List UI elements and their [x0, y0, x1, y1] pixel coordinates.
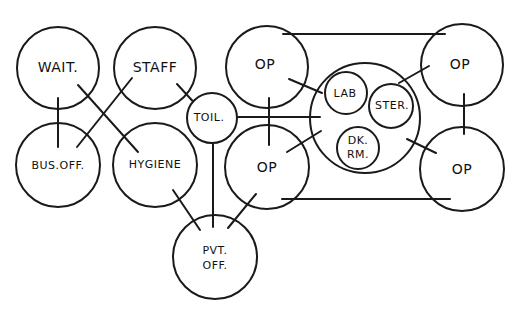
- node-sterilization: STER.: [369, 84, 413, 128]
- node-staff: STAFF: [114, 27, 196, 109]
- edge-op-bl-private-office: [228, 194, 256, 228]
- label-operatory-top-left: OP: [255, 56, 275, 72]
- node-toilet: TOIL.: [187, 93, 237, 143]
- node-operatory-bottom-right: OP: [420, 127, 504, 211]
- label-hygiene: HYGIENE: [129, 158, 181, 171]
- label-private-office-line2: OFF.: [202, 259, 227, 272]
- node-private-office: PVT. OFF.: [173, 215, 257, 299]
- edge-hygiene-private-office: [173, 190, 200, 230]
- label-darkroom-line1: DK.: [348, 134, 369, 147]
- node-operatory-top-right: OP: [421, 24, 503, 106]
- label-private-office-line1: PVT.: [202, 244, 227, 257]
- label-operatory-bottom-right: OP: [452, 161, 472, 177]
- label-operatory-top-right: OP: [450, 56, 470, 72]
- node-waiting-room: WAIT.: [17, 27, 99, 109]
- label-waiting-room: WAIT.: [38, 59, 79, 75]
- node-operatory-top-left: OP: [226, 26, 308, 108]
- label-lab: LAB: [334, 87, 357, 100]
- node-lab: LAB: [325, 72, 367, 114]
- label-toilet: TOIL.: [193, 111, 225, 124]
- label-business-office: BUS.OFF.: [31, 159, 84, 172]
- adjacency-diagram: WAIT. STAFF BUS.OFF. HYGIENE TOIL. PVT. …: [0, 0, 513, 312]
- label-operatory-bottom-left: OP: [257, 159, 277, 175]
- label-sterilization: STER.: [375, 99, 409, 112]
- label-staff: STAFF: [133, 59, 178, 75]
- edge-wait-hygiene: [78, 85, 138, 152]
- node-darkroom: DK. RM.: [337, 127, 379, 169]
- node-hygiene: HYGIENE: [113, 123, 197, 207]
- node-operatory-bottom-left: OP: [225, 125, 309, 209]
- label-darkroom-line2: RM.: [347, 148, 369, 161]
